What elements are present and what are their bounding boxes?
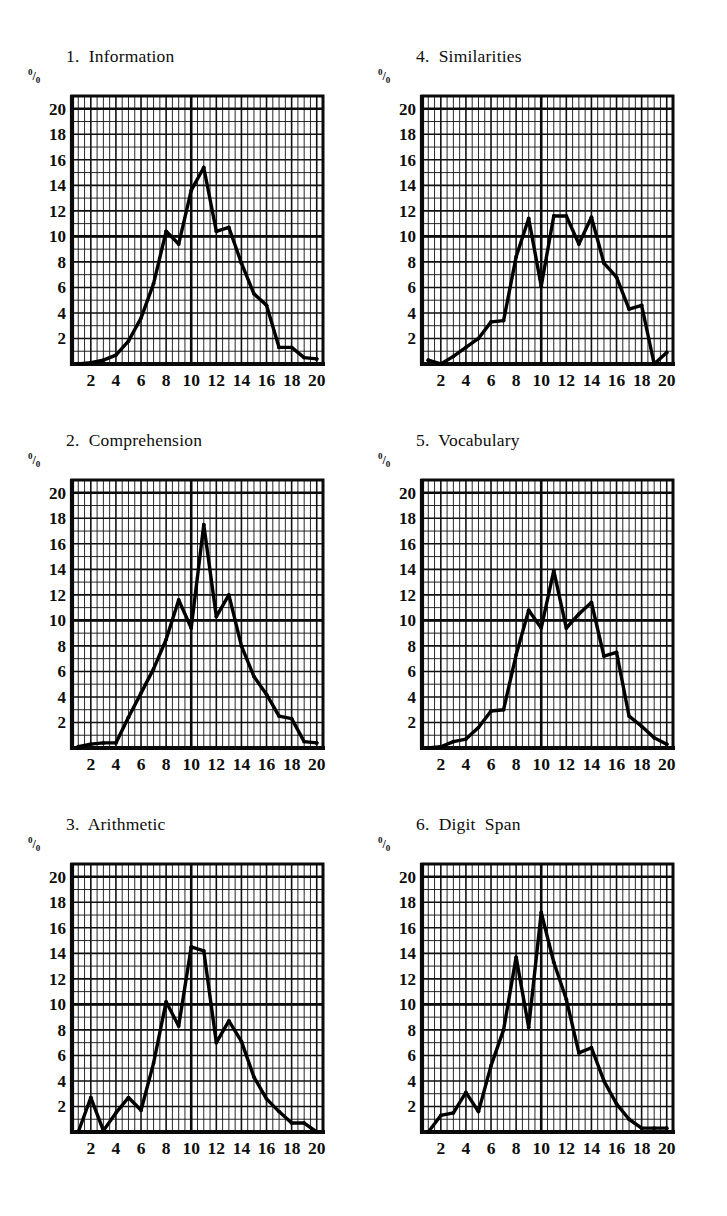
x-tick-label: 18 [633, 1138, 651, 1158]
chart-panel-arithmetic: 3. Arithmetic0/0246810121416182024681012… [22, 812, 370, 1184]
y-tick-label: 2 [408, 713, 417, 732]
data-point [539, 911, 543, 915]
data-point [152, 667, 156, 671]
data-point [527, 608, 531, 612]
data-point [152, 1061, 156, 1065]
data-point [602, 1079, 606, 1083]
x-tick-label: 20 [658, 370, 676, 390]
data-point [252, 1075, 256, 1079]
y-tick-label: 12 [399, 586, 416, 605]
data-point [202, 166, 206, 170]
data-point [252, 292, 256, 296]
x-tick-label: 12 [558, 1138, 576, 1158]
x-tick-label: 10 [182, 1138, 200, 1158]
plot-area-similarities: 24681012141618202468101214161820 [372, 44, 720, 416]
x-tick-label: 16 [258, 370, 276, 390]
y-tick-label: 4 [408, 1072, 417, 1091]
y-tick-label: 8 [408, 1021, 417, 1040]
x-tick-label: 2 [436, 754, 445, 774]
x-tick-label: 2 [436, 370, 445, 390]
data-point [527, 1025, 531, 1029]
y-axis-ticks-comprehension: 2468101214161820 [49, 484, 67, 733]
data-point [214, 229, 218, 233]
data-point [502, 1028, 506, 1032]
data-point [615, 1102, 619, 1106]
data-point [89, 361, 93, 365]
y-tick-label: 8 [58, 1021, 67, 1040]
chart-panel-digit-span: 6. Digit Span0/0246810121416182024681012… [372, 812, 720, 1184]
data-point [477, 1110, 481, 1114]
data-point [477, 726, 481, 730]
x-tick-label: 12 [208, 370, 226, 390]
data-point [214, 615, 218, 619]
data-point [227, 1019, 231, 1023]
x-tick-label: 12 [208, 1138, 226, 1158]
x-tick-label: 2 [86, 370, 95, 390]
y-tick-label: 4 [408, 304, 417, 323]
data-point [177, 1024, 181, 1028]
y-tick-label: 10 [399, 995, 416, 1014]
data-point [189, 189, 193, 193]
y-tick-label: 2 [58, 329, 67, 348]
y-tick-label: 12 [399, 202, 416, 221]
data-point [439, 1114, 443, 1118]
y-tick-label: 16 [399, 151, 416, 170]
chart-panel-vocabulary: 5. Vocabulary0/0246810121416182024681012… [372, 428, 720, 800]
data-point [489, 1064, 493, 1068]
x-tick-label: 12 [558, 754, 576, 774]
data-point [240, 1039, 244, 1043]
x-axis-ticks-comprehension: 2468101214161820 [86, 754, 325, 774]
data-point [552, 214, 556, 218]
data-point [489, 709, 493, 713]
x-tick-label: 14 [233, 754, 251, 774]
y-tick-label: 16 [49, 919, 66, 938]
x-tick-label: 8 [512, 370, 521, 390]
y-axis-ticks-information: 2468101214161820 [49, 100, 67, 349]
grid-minor [422, 480, 673, 748]
chart-panel-information: 1. Information0/024681012141618202468101… [22, 44, 370, 416]
y-axis-ticks-digit-span: 2468101214161820 [399, 868, 417, 1117]
y-tick-label: 18 [399, 509, 416, 528]
y-tick-label: 20 [49, 100, 66, 119]
data-point [202, 949, 206, 953]
data-point [240, 261, 244, 265]
y-tick-label: 10 [49, 227, 66, 246]
x-axis-ticks-arithmetic: 2468101214161820 [86, 1138, 325, 1158]
plot-area-vocabulary: 24681012141618202468101214161820 [372, 428, 720, 800]
data-point [627, 307, 631, 311]
x-tick-label: 10 [532, 754, 550, 774]
x-tick-label: 16 [258, 754, 276, 774]
data-point [514, 955, 518, 959]
data-point [127, 339, 131, 343]
x-tick-label: 8 [162, 754, 171, 774]
x-tick-label: 16 [258, 1138, 276, 1158]
x-tick-label: 12 [208, 754, 226, 774]
y-tick-label: 6 [408, 662, 417, 681]
data-point [302, 740, 306, 744]
data-point [315, 741, 319, 745]
y-tick-label: 18 [49, 125, 66, 144]
chart-panel-similarities: 4. Similarities0/02468101214161820246810… [372, 44, 720, 416]
x-tick-label: 18 [283, 1138, 301, 1158]
x-tick-label: 20 [308, 1138, 326, 1158]
chart-panel-comprehension: 2. Comprehension0/0246810121416182024681… [22, 428, 370, 800]
data-point [652, 1126, 656, 1130]
y-tick-label: 2 [408, 1097, 417, 1116]
data-point [114, 353, 118, 357]
y-tick-label: 8 [408, 637, 417, 656]
data-point [290, 1121, 294, 1125]
data-point [615, 275, 619, 279]
y-tick-label: 14 [399, 560, 417, 579]
data-point [426, 1130, 430, 1134]
plot-area-digit-span: 24681012141618202468101214161820 [372, 812, 720, 1184]
data-point [564, 997, 568, 1001]
x-tick-label: 20 [658, 754, 676, 774]
data-point [652, 736, 656, 740]
data-point [277, 346, 281, 350]
y-tick-label: 14 [49, 176, 67, 195]
y-tick-label: 18 [49, 893, 66, 912]
x-tick-label: 10 [532, 370, 550, 390]
y-tick-label: 20 [49, 484, 66, 503]
y-axis-ticks-similarities: 2468101214161820 [399, 100, 417, 349]
x-tick-label: 6 [487, 1138, 496, 1158]
